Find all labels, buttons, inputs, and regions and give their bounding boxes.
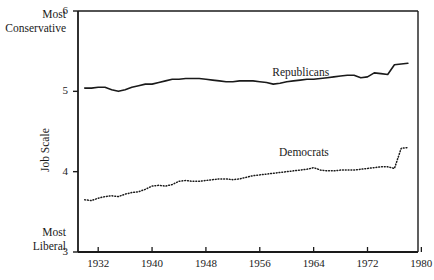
axis-note-liberal-line1: Most bbox=[42, 226, 66, 238]
x-tick-label-1964: 1964 bbox=[294, 258, 334, 269]
series-annotation-democrats: Democrats bbox=[279, 147, 329, 159]
x-tick-label-1956: 1956 bbox=[240, 258, 280, 269]
data-series bbox=[85, 63, 408, 200]
x-tick-label-1940: 1940 bbox=[132, 258, 172, 269]
y-tick-label-5: 5 bbox=[48, 85, 68, 96]
y-axis-title: Job Scale bbox=[40, 128, 52, 172]
axis-note-conservative-line1: Most bbox=[42, 8, 66, 20]
series-line-republicans bbox=[85, 63, 408, 91]
chart-figure: 34561932194019481956196419721980Republic… bbox=[0, 0, 434, 280]
axis-note-conservative: MostConservative bbox=[0, 7, 66, 36]
x-tick-label-1932: 1932 bbox=[78, 258, 118, 269]
axis-note-liberal-line2: Liberal bbox=[33, 240, 66, 252]
x-tick-label-1948: 1948 bbox=[186, 258, 226, 269]
axis-note-conservative-line2: Conservative bbox=[5, 22, 66, 34]
x-tick-label-1980: 1980 bbox=[401, 258, 434, 269]
axis-ticks bbox=[73, 11, 421, 252]
series-line-democrats bbox=[85, 148, 408, 201]
series-annotation-republicans: Republicans bbox=[272, 67, 329, 79]
axis-note-liberal: MostLiberal bbox=[0, 225, 66, 254]
plot-frame bbox=[78, 11, 418, 252]
x-tick-label-1972: 1972 bbox=[348, 258, 388, 269]
